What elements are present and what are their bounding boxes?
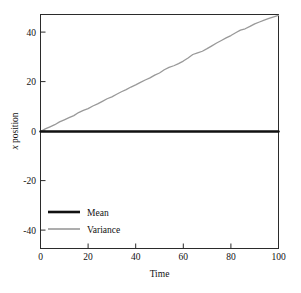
x-tick-label-80: 80 (226, 252, 236, 262)
x-tick-label-20: 20 (83, 252, 93, 262)
chart-figure: 40 20 0 -20 -40 0 20 40 60 80 100 Time x… (0, 0, 301, 293)
y-tick-label-0: 0 (31, 127, 36, 137)
legend-label-mean: Mean (87, 208, 109, 218)
x-tick-label-60: 60 (179, 252, 189, 262)
y-tick-label-minus20: -20 (23, 176, 36, 186)
y-tick-label-minus40: -40 (23, 226, 36, 236)
x-tick-label-0: 0 (38, 252, 43, 262)
y-axis-title: x position (10, 112, 20, 150)
y-axis-title-rest: position (10, 112, 20, 145)
figure-background (0, 0, 301, 293)
x-tick-label-100: 100 (271, 252, 286, 262)
legend-label-variance: Variance (87, 225, 120, 235)
x-tick-label-40: 40 (131, 252, 141, 262)
line-chart-canvas: 40 20 0 -20 -40 0 20 40 60 80 100 Time x… (0, 0, 301, 293)
y-tick-label-40: 40 (27, 28, 37, 38)
x-axis-title: Time (150, 269, 170, 279)
y-tick-label-20: 20 (27, 77, 37, 87)
